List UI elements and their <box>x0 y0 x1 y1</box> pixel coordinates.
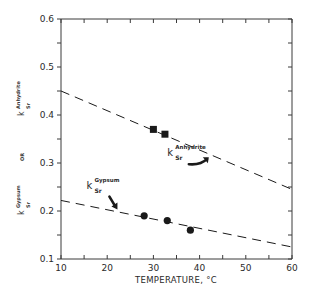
x-tick-label: 30 <box>148 263 160 273</box>
axes <box>61 19 292 259</box>
annotations: kAnhydriteSrkGypsumSr <box>86 144 208 210</box>
trend-line-gypsum-trend <box>61 200 292 247</box>
arrow-icon <box>189 159 207 164</box>
annotation-subscript: Sr <box>175 154 182 161</box>
annotation-superscript: Anhydrite <box>175 144 206 151</box>
square-marker <box>150 126 157 133</box>
square-marker <box>161 131 168 138</box>
y-tick-label: 0.4 <box>40 110 55 120</box>
trend-line-anhydrite-trend <box>61 91 292 189</box>
y-axis-ticks: 0.10.20.30.40.50.6 <box>40 14 292 264</box>
y-tick-label: 0.2 <box>40 206 54 216</box>
annotation-superscript: Gypsum <box>94 177 119 184</box>
circle-marker <box>164 217 171 224</box>
annotation-label-gypsum: kGypsumSr <box>86 177 119 194</box>
chart-canvas: 102030405060 0.10.20.30.40.50.6 kAnhydri… <box>0 0 311 303</box>
y-axis-title-anhydrite: k Anhydrite Sr <box>15 81 31 116</box>
y-axis-subscript: Sr <box>25 201 31 208</box>
circle-marker <box>187 227 194 234</box>
circle-marker <box>141 212 148 219</box>
data-markers <box>141 126 194 234</box>
y-tick-label: 0.5 <box>40 62 54 72</box>
y-axis-or-label: OR <box>19 153 25 161</box>
y-axis-symbol: k <box>17 210 26 215</box>
y-axis-symbol: k <box>17 111 26 116</box>
y-tick-label: 0.3 <box>40 158 54 168</box>
annotation-label-anhydrite: kAnhydriteSr <box>167 144 206 161</box>
y-axis-title: k Anhydrite Sr OR k Gypsum Sr <box>15 81 31 215</box>
trend-lines <box>61 91 292 247</box>
y-axis-subscript: Sr <box>25 102 31 109</box>
annotation-symbol: k <box>167 147 173 158</box>
x-tick-label: 10 <box>55 263 67 273</box>
x-axis-title: TEMPERATURE, °C <box>134 275 217 285</box>
y-axis-title-gypsum: k Gypsum Sr <box>15 185 31 215</box>
x-tick-label: 60 <box>286 263 298 273</box>
x-tick-label: 40 <box>194 263 206 273</box>
annotation-symbol: k <box>86 180 92 191</box>
x-tick-label: 50 <box>240 263 252 273</box>
y-tick-label: 0.6 <box>40 14 55 24</box>
annotation-subscript: Sr <box>94 187 101 194</box>
y-axis-superscript: Gypsum <box>15 185 22 208</box>
x-tick-label: 20 <box>101 263 113 273</box>
y-axis-superscript: Anhydrite <box>15 81 22 109</box>
y-tick-label: 0.1 <box>40 254 54 264</box>
